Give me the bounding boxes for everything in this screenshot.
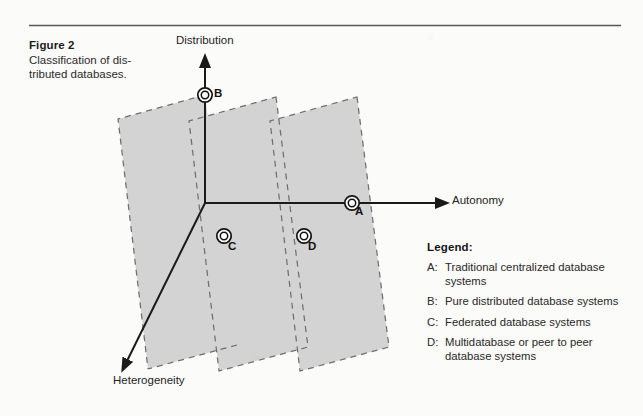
legend-key-d: D: <box>427 336 445 363</box>
legend-entry-b: B: Pure distributed database systems <box>427 295 627 309</box>
legend-entry-d: D: Multidatabase or peer to peer databas… <box>427 336 627 363</box>
legend-desc-c: Federated database systems <box>445 316 627 330</box>
node-label-c: C <box>228 240 236 252</box>
node-label-b: B <box>214 87 222 99</box>
figure-caption-title: Figure 2 <box>29 38 147 52</box>
legend-key-b: B: <box>427 295 445 309</box>
legend-key-a: A: <box>427 261 445 288</box>
node-label-a: A <box>355 205 363 217</box>
axis-label-distribution: Distribution <box>176 34 234 46</box>
legend-entry-a: A: Traditional centralized database syst… <box>427 261 627 288</box>
plane-group <box>118 95 389 371</box>
axis-label-autonomy: Autonomy <box>452 194 504 206</box>
figure-caption: Figure 2 Classification of dis- tributed… <box>29 38 147 81</box>
figure-page: Figure 2 Classification of dis- tributed… <box>0 0 643 416</box>
legend-title: Legend: <box>427 241 627 253</box>
legend-entry-c: C: Federated database systems <box>427 316 627 330</box>
node-marker-b <box>198 88 212 102</box>
node-label-d: D <box>308 240 316 252</box>
axis-label-heterogeneity: Heterogeneity <box>113 374 185 386</box>
legend: Legend: A: Traditional centralized datab… <box>427 241 627 371</box>
legend-desc-d: Multidatabase or peer to peer database s… <box>445 336 627 363</box>
legend-desc-b: Pure distributed database systems <box>445 295 627 309</box>
legend-key-c: C: <box>427 316 445 330</box>
legend-desc-a: Traditional centralized database systems <box>445 261 627 288</box>
figure-caption-text: Classification of dis- tributed database… <box>29 53 147 81</box>
